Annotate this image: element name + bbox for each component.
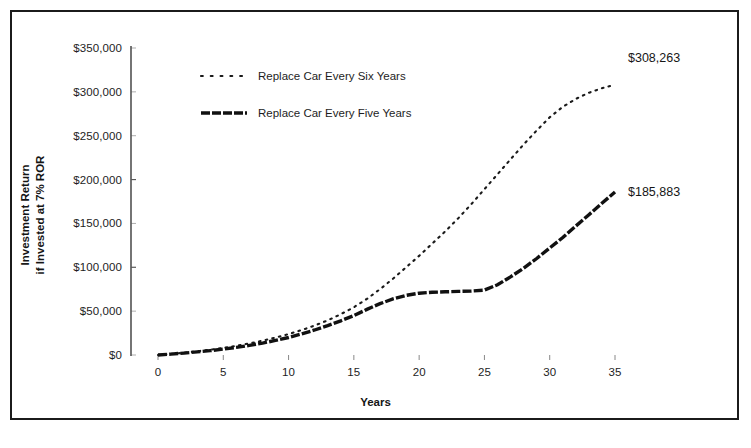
x-tick-label: 20 xyxy=(413,366,426,378)
x-tick-label: 15 xyxy=(347,366,360,378)
y-tick-label: $0 xyxy=(18,349,122,361)
chart-plot-container: $0$50,000$100,000$150,000$200,000$250,00… xyxy=(0,0,751,448)
chart-page: $0$50,000$100,000$150,000$200,000$250,00… xyxy=(0,0,751,448)
x-axis-ticks xyxy=(158,355,615,360)
x-tick-label: 10 xyxy=(282,366,295,378)
x-tick-label: 5 xyxy=(220,366,227,378)
series-line-five-years xyxy=(158,192,615,355)
legend-label-five-years: Replace Car Every Five Years xyxy=(258,107,411,119)
series-line-six-years xyxy=(158,85,615,355)
x-axis-title: Years xyxy=(0,396,751,408)
annotation-six-years-value: $308,263 xyxy=(628,51,680,65)
y-axis-ticks xyxy=(131,48,136,355)
x-tick-label: 30 xyxy=(543,366,556,378)
y-tick-label: $300,000 xyxy=(18,86,122,98)
annotation-five-years-value: $185,883 xyxy=(628,185,680,199)
y-axis-title-line2: if Invested at 7% ROR xyxy=(33,120,48,310)
y-axis-title: Investment Return if Invested at 7% ROR xyxy=(18,120,48,310)
x-tick-label: 35 xyxy=(609,366,622,378)
x-tick-label: 0 xyxy=(155,366,162,378)
x-tick-label: 25 xyxy=(478,366,491,378)
y-tick-label: $350,000 xyxy=(18,42,122,54)
legend-label-six-years: Replace Car Every Six Years xyxy=(258,70,406,82)
y-axis-title-line1: Investment Return xyxy=(18,120,33,310)
